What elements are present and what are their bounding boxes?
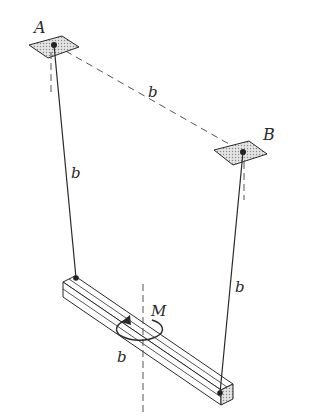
label-distance-ab: b: [148, 83, 158, 101]
cable-b: [220, 152, 243, 393]
label-moment: M: [150, 302, 167, 320]
cable-a: [54, 45, 76, 278]
support-plate-b: [214, 141, 267, 165]
label-cable-b-length: b: [235, 278, 245, 296]
label-b-support: B: [262, 125, 275, 144]
bar: [63, 276, 233, 405]
label-bar-length: b: [117, 348, 127, 366]
attachment-point-right: [217, 390, 223, 396]
label-cable-a-length: b: [71, 164, 81, 182]
mechanics-diagram: A B b b b b M: [0, 0, 312, 418]
attachment-point-left: [73, 275, 79, 281]
label-a: A: [32, 18, 46, 37]
